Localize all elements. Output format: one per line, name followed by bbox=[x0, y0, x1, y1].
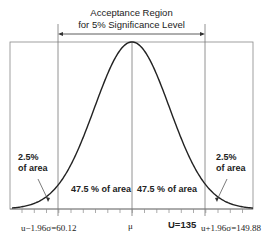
left-critical-value: u−1.96σ=60.12 bbox=[21, 223, 77, 233]
bell-curve bbox=[12, 42, 253, 208]
right-tail-pointer bbox=[217, 179, 227, 200]
right-tail-label: 2.5% of area bbox=[216, 152, 246, 174]
arrow-left-head-icon bbox=[58, 32, 63, 36]
right-tail-pct: 2.5% bbox=[216, 152, 246, 163]
frame bbox=[10, 42, 253, 209]
title-line-1: Acceptance Region bbox=[0, 7, 263, 19]
left-tail-text: of area bbox=[18, 163, 48, 174]
normal-distribution-diagram bbox=[0, 0, 263, 244]
title-line-2: for 5% Significance Level bbox=[0, 19, 263, 31]
arrow-right-head-icon bbox=[200, 32, 205, 36]
diagram-title: Acceptance Region for 5% Significance Le… bbox=[0, 7, 263, 31]
left-tail-label: 2.5% of area bbox=[18, 152, 48, 174]
left-tail-pct: 2.5% bbox=[18, 152, 48, 163]
left-pointer-head-icon bbox=[46, 197, 50, 202]
right-critical-value: u+1.96σ=149.88 bbox=[201, 223, 261, 233]
U-value-label: U=135 bbox=[168, 219, 196, 230]
axis-ticks bbox=[22, 209, 243, 213]
left-tail-pointer bbox=[38, 179, 48, 200]
mean-label: μ bbox=[128, 221, 133, 231]
right-pointer-head-icon bbox=[215, 197, 219, 202]
center-right-label: 47.5 % of area bbox=[137, 184, 197, 195]
center-left-label: 47.5 % of area bbox=[71, 184, 131, 195]
right-tail-text: of area bbox=[216, 163, 246, 174]
